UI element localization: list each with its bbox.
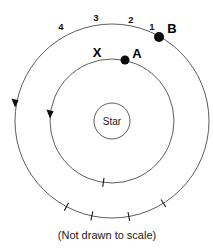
tick-mark-3: [128, 212, 130, 221]
orbit-diagram: Star 4 3 2 1 X B A (Not drawn to scale): [0, 0, 213, 250]
tick-mark-4: [161, 199, 166, 207]
tick-label-4: 4: [58, 21, 64, 32]
body-b-label: B: [167, 21, 176, 36]
tick-label-1: 1: [149, 21, 155, 32]
tick-label-2: 2: [128, 14, 133, 25]
body-a-label: A: [132, 46, 142, 61]
star-label: Star: [103, 116, 122, 127]
tick-mark-x: [103, 178, 104, 187]
body-b-dot: [154, 32, 164, 42]
orbit-diagram-canvas: Star 4 3 2 1 X B A (Not drawn to scale): [0, 0, 213, 250]
inner-orbit-direction-arrow: [46, 110, 53, 119]
figure-caption: (Not drawn to scale): [58, 229, 156, 241]
body-a-dot: [121, 56, 130, 65]
tick-mark-1: [64, 203, 68, 211]
tick-label-3: 3: [93, 12, 98, 23]
tick-label-x: X: [93, 45, 102, 60]
